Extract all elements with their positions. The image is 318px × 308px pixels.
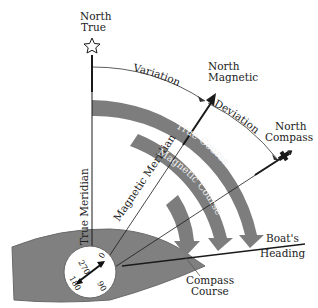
deviation-label: Deviation [213,97,263,136]
compass-course-label-2: Course [191,285,229,297]
north-compass-label-2: Compass [265,131,313,143]
variation-label: Variation [131,61,182,88]
compass-course-diagram: 0 270 180 90 North True North Magnetic N… [0,0,318,308]
variation-arrowhead [198,96,205,102]
deviation-arrowhead [272,154,278,160]
north-magnetic-label-2: Magnetic [208,71,258,83]
north-true-label-2: True [81,21,106,33]
boats-heading-label: Boat's [266,232,299,244]
north-true-star-icon [84,38,100,53]
true-meridian-label: True Meridian [78,168,90,245]
boats-heading-label-2: Heading [260,247,305,259]
north-compass-icon [276,146,295,163]
